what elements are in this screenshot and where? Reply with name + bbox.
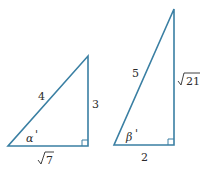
left-triangle-shape [8,56,88,146]
angle-prime: ' [35,128,38,141]
angle-label: α ' [26,128,38,145]
horizontal-leg-label: 2 [141,151,148,164]
angle-symbol: α [26,132,34,145]
hypotenuse-label: 5 [132,67,139,80]
radicand: 7 [46,154,53,167]
angle-label: β ' [125,127,138,144]
radicand: 21 [186,75,200,88]
hypotenuse-label: 4 [38,90,45,103]
right-triangle: 5 21 β ' 2 [114,9,200,164]
right-angle-marker [168,139,174,145]
vertical-leg-label: 21 [178,73,200,88]
angle-prime: ' [135,127,138,140]
right-triangle-shape [114,9,174,145]
diagram-canvas: 4 3 α ' 7 5 21 β ' 2 [0,0,210,169]
vertical-leg-label: 3 [92,98,99,111]
right-angle-marker [82,140,88,146]
angle-symbol: β [125,131,132,144]
horizontal-leg-label: 7 [38,152,54,167]
left-triangle: 4 3 α ' 7 [8,56,99,167]
